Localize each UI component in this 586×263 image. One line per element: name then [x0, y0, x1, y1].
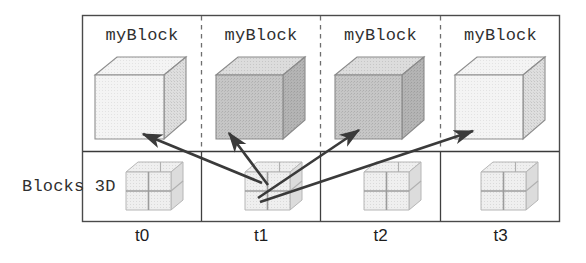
object-cube-t2 — [335, 57, 424, 139]
class-row-label: Blocks 3D — [22, 177, 116, 196]
object-cube-t0 — [95, 57, 186, 139]
object-label-t0: myBlock — [83, 26, 201, 45]
time-label-t0: t0 — [83, 226, 201, 246]
class-cube-t0 — [126, 162, 183, 210]
time-label-t3: t3 — [441, 226, 560, 246]
object-cube-t1 — [216, 57, 305, 139]
object-label-t2: myBlock — [321, 26, 440, 45]
class-cube-t3 — [481, 162, 538, 210]
object-label-t1: myBlock — [202, 26, 320, 45]
time-label-t2: t2 — [321, 226, 440, 246]
diagram-canvas: myBlock myBlock myBlock myBlock Blocks 3… — [0, 0, 586, 263]
time-label-t1: t1 — [202, 226, 320, 246]
object-label-t3: myBlock — [441, 26, 560, 45]
class-cube-t2 — [364, 162, 421, 210]
instantiation-arrows — [143, 130, 473, 202]
object-cube-t3 — [455, 57, 545, 139]
